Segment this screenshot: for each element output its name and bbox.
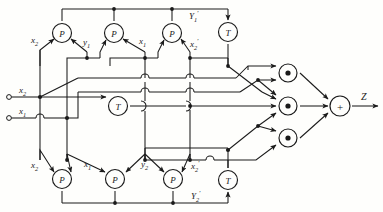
horizontal-cross-wires	[78, 74, 240, 92]
x1-input-fanout	[36, 66, 78, 160]
label-x2-input: x2	[19, 86, 26, 97]
label-x1-input: x1	[19, 107, 26, 118]
gate-t-middle[interactable]: T	[109, 97, 128, 116]
x2-input-fanout	[40, 50, 106, 160]
gate-p-top-3[interactable]: P	[163, 24, 182, 43]
label-x2-top: x2	[31, 36, 38, 47]
gate-and-1[interactable]	[279, 64, 297, 82]
svg-text:P: P	[169, 175, 176, 185]
vertical-signal-buses	[145, 58, 192, 160]
svg-text:+: +	[337, 101, 343, 113]
gate-t-bottom[interactable]: T	[219, 171, 238, 190]
top-t-connections	[226, 44, 230, 68]
gate-p-top-2[interactable]: P	[105, 24, 124, 43]
label-x2-prime-bottom: x2′	[191, 160, 200, 173]
label-y2: y2	[141, 160, 148, 171]
middle-t-output	[130, 101, 276, 111]
svg-text:P: P	[58, 29, 65, 39]
label-output-z: Z	[361, 92, 367, 102]
svg-text:P: P	[58, 175, 65, 185]
bottom-crossover-network	[228, 113, 276, 160]
and-to-sum-wires	[300, 73, 328, 138]
label-y1: y1	[83, 38, 90, 49]
bottom-cross-wires	[145, 148, 230, 168]
bottom-feedback-bus	[62, 191, 228, 205]
svg-text:P: P	[168, 29, 175, 39]
gate-and-3[interactable]	[279, 129, 297, 147]
circuit-canvas: P P P T T P P P	[0, 0, 383, 212]
svg-text:P: P	[110, 29, 117, 39]
gate-and-2[interactable]	[279, 97, 297, 115]
gate-p-top-1[interactable]: P	[53, 24, 72, 43]
label-x2-prime-top: x2′	[190, 38, 199, 51]
label-x2-bottom: x2	[31, 161, 38, 172]
top-gate-input-wires	[40, 39, 228, 66]
bottom-gate-input-wires	[40, 150, 192, 172]
circuit-diagram: P P P T T P P P	[0, 0, 383, 212]
top-feedback-bus	[62, 7, 228, 21]
label-x1-top: x1	[139, 37, 146, 48]
gate-sum[interactable]: +	[330, 96, 350, 116]
label-Y2-prime: Y2′	[191, 190, 201, 203]
gate-t-top[interactable]: T	[219, 23, 238, 42]
gate-p-bottom-3[interactable]: P	[164, 170, 183, 189]
gate-p-bottom-2[interactable]: P	[106, 170, 125, 189]
svg-text:P: P	[111, 175, 118, 185]
label-Y1-prime: Y1′	[189, 10, 199, 23]
gate-p-bottom-1[interactable]: P	[53, 170, 72, 189]
top-crossover-network	[228, 66, 276, 99]
label-x1-bottom: x1	[84, 160, 91, 171]
